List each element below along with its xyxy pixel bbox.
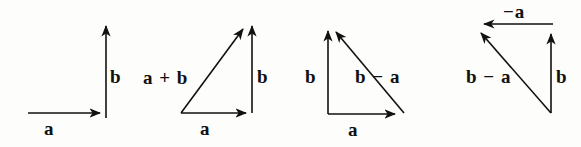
label-vector-a-plus-b: a + b: [143, 68, 188, 87]
label-vector-a-3: a: [348, 120, 358, 139]
label-vector-negative-a: −a: [503, 2, 525, 21]
label-vector-b-2: b: [257, 67, 268, 86]
label-vector-a-2: a: [200, 119, 210, 138]
label-vector-a-1: a: [44, 119, 54, 138]
panel-2-vectors: [181, 26, 252, 113]
vector-a-plus-b-arrow: [181, 29, 243, 113]
label-vector-b-4: b: [556, 67, 567, 86]
label-vector-b-minus-a-4: b − a: [466, 67, 511, 86]
label-vector-b-1: b: [110, 67, 121, 86]
panel-1-vectors: [28, 26, 106, 118]
vector-diagram-figure: a b a b a + b a b b − a −a b b − a: [0, 0, 581, 147]
label-vector-b-minus-a-3: b − a: [355, 67, 400, 86]
label-vector-b-3: b: [305, 67, 316, 86]
